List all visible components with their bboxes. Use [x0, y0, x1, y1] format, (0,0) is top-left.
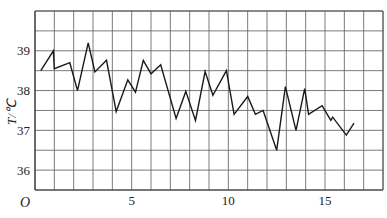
grid: [35, 11, 383, 190]
y-tick-label: 39: [17, 43, 30, 58]
y-tick-label: 38: [17, 83, 30, 98]
y-axis-label: T/℃: [4, 98, 19, 125]
x-tick-label: 15: [319, 193, 332, 208]
temperature-line-chart: 36373839 51015 O T/℃: [0, 0, 387, 218]
y-tick-labels: 36373839: [17, 43, 31, 177]
y-tick-label: 37: [17, 123, 31, 138]
y-tick-label: 36: [17, 163, 31, 178]
x-tick-label: 10: [222, 193, 235, 208]
origin-label: O: [20, 195, 30, 210]
x-tick-label: 5: [128, 193, 135, 208]
data-line: [41, 43, 354, 150]
x-tick-labels: 51015: [128, 193, 331, 208]
